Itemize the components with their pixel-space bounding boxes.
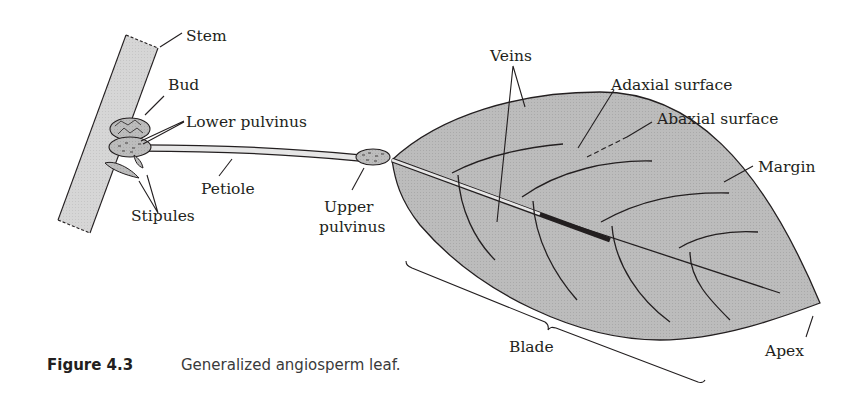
upper-pulvinus [356, 149, 390, 165]
label-stipules: Stipules [131, 207, 195, 225]
label-adaxial-surface: Adaxial surface [610, 76, 732, 94]
figure-number: Figure 4.3 [47, 356, 133, 374]
label-blade: Blade [509, 338, 554, 356]
label-petiole: Petiole [201, 180, 255, 198]
label-stem: Stem [186, 27, 227, 45]
label-abaxial-surface: Abaxial surface [656, 110, 778, 128]
leaf-blade [392, 92, 820, 340]
label-margin: Margin [758, 158, 815, 176]
label-apex: Apex [764, 342, 804, 360]
label-lower-pulvinus: Lower pulvinus [186, 113, 307, 131]
figure-caption: Generalized angiosperm leaf. [181, 356, 401, 374]
label-veins: Veins [489, 47, 532, 65]
label-upper-pulvinus-line1: Upper [324, 198, 374, 216]
lower-pulvinus [109, 137, 151, 157]
leaf-diagram: Stem Bud Lower pulvinus Petiole Stipules… [0, 0, 865, 405]
label-bud: Bud [168, 76, 199, 94]
label-upper-pulvinus-line2: pulvinus [319, 218, 386, 236]
